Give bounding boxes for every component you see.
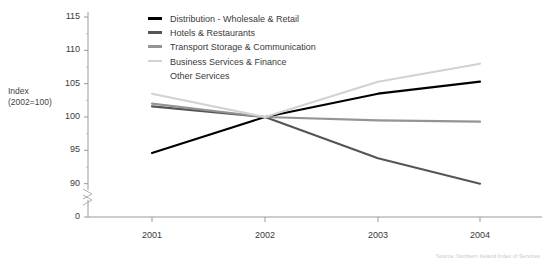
series-line-0 bbox=[152, 82, 480, 153]
legend-item-label: Transport Storage & Communication bbox=[170, 40, 316, 54]
x-tick-label: 2002 bbox=[245, 230, 285, 240]
x-tick-label: 2004 bbox=[460, 230, 500, 240]
legend-swatch-icon bbox=[148, 17, 162, 20]
chart-legend: Distribution - Wholesale & RetailHotels … bbox=[148, 12, 378, 83]
legend-swatch-icon bbox=[148, 74, 162, 77]
x-axis-ticks bbox=[152, 217, 480, 222]
y-tick-label: 95 bbox=[54, 144, 80, 154]
legend-swatch-icon bbox=[148, 60, 162, 63]
y-tick-label-zero: 0 bbox=[54, 211, 80, 221]
y-tick-label: 105 bbox=[54, 78, 80, 88]
index-of-services-line-chart: Index (2002=100) Distribution - Wholesal… bbox=[0, 0, 546, 258]
legend-item[interactable]: Transport Storage & Communication bbox=[148, 40, 378, 54]
y-tick-label: 110 bbox=[54, 44, 80, 54]
legend-swatch-icon bbox=[148, 45, 162, 48]
legend-item-label: Hotels & Restaurants bbox=[170, 26, 255, 40]
legend-item[interactable]: Business Services & Finance bbox=[148, 55, 378, 69]
legend-item-label: Distribution - Wholesale & Retail bbox=[170, 12, 299, 26]
x-tick-label: 2003 bbox=[358, 230, 398, 240]
legend-item-label: Other Services bbox=[170, 69, 230, 83]
y-tick-label: 115 bbox=[54, 11, 80, 21]
legend-item[interactable]: Distribution - Wholesale & Retail bbox=[148, 12, 378, 26]
legend-item-label: Business Services & Finance bbox=[170, 55, 287, 69]
y-tick-label: 100 bbox=[54, 111, 80, 121]
legend-item[interactable]: Hotels & Restaurants bbox=[148, 26, 378, 40]
legend-item[interactable]: Other Services bbox=[148, 69, 378, 83]
y-tick-label: 90 bbox=[54, 178, 80, 188]
y-axis-title: Index (2002=100) bbox=[8, 86, 78, 108]
y-axis-ticks bbox=[84, 17, 88, 217]
source-note: Source: Northern Ireland Index of Servic… bbox=[436, 253, 540, 258]
x-tick-label: 2001 bbox=[132, 230, 172, 240]
legend-swatch-icon bbox=[148, 31, 162, 34]
